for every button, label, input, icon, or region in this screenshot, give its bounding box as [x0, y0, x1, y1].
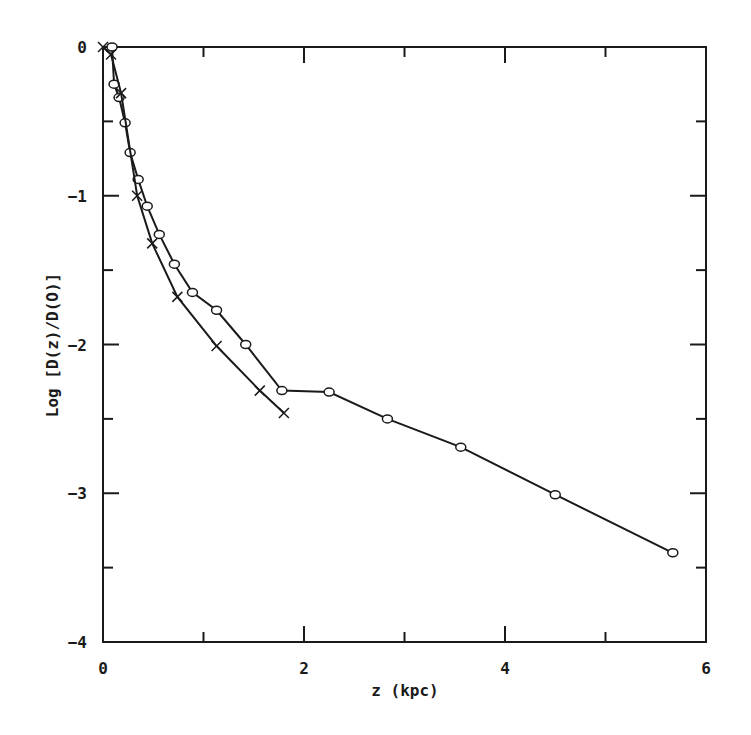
- y-tick-label: −2: [68, 336, 87, 355]
- tick-labels: 02460−1−2−3−4: [68, 38, 711, 678]
- series-circles: [107, 43, 678, 557]
- circle-marker-icon: [169, 260, 179, 268]
- axis-ticks: [103, 47, 706, 642]
- circle-marker-icon: [382, 415, 392, 423]
- circle-marker-icon: [187, 288, 197, 296]
- y-axis-label: Log [D(z)/D(O)]: [43, 273, 62, 418]
- circle-marker-icon: [142, 202, 152, 210]
- circle-marker-icon: [212, 306, 222, 314]
- y-tick-label: 0: [77, 38, 87, 57]
- circle-marker-icon: [550, 491, 560, 499]
- x-tick-label: 0: [98, 659, 108, 678]
- chart: 02460−1−2−3−4 z (kpc) Log [D(z)/D(O)]: [0, 0, 751, 735]
- x-tick-label: 6: [701, 659, 711, 678]
- circle-marker-icon: [668, 549, 678, 557]
- x-axis-label: z (kpc): [371, 681, 438, 700]
- x-tick-label: 4: [500, 659, 510, 678]
- series-line: [112, 47, 673, 553]
- data-series: [98, 42, 678, 557]
- y-tick-label: −3: [68, 484, 87, 503]
- circle-marker-icon: [241, 341, 251, 349]
- cross-marker-icon: [279, 408, 289, 418]
- circle-marker-icon: [456, 443, 466, 451]
- x-tick-label: 2: [299, 659, 309, 678]
- circle-marker-icon: [277, 387, 287, 395]
- circle-marker-icon: [324, 388, 334, 396]
- cross-marker-icon: [255, 386, 265, 396]
- circle-marker-icon: [154, 230, 164, 238]
- y-tick-label: −4: [68, 633, 87, 652]
- cross-marker-icon: [172, 292, 182, 302]
- cross-marker-icon: [212, 341, 222, 351]
- cross-marker-icon: [147, 238, 157, 248]
- y-tick-label: −1: [68, 187, 87, 206]
- plot-frame: [103, 47, 706, 642]
